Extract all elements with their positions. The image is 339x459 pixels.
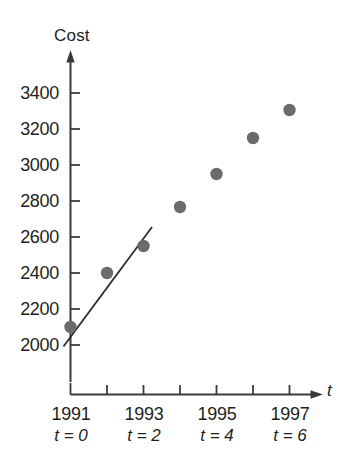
x-tick-t-value: t = 0: [40, 425, 102, 447]
y-tick-text: 3400: [0, 83, 59, 104]
x-tick-year: 1991: [40, 404, 102, 425]
data-point: [283, 104, 295, 116]
y-tick-label-2200: 2200: [0, 299, 59, 319]
x-tick-group-1993: 1993 t = 2: [113, 404, 175, 447]
x-tick-t-value: t = 6: [259, 425, 321, 447]
y-tick-text: 2400: [0, 263, 59, 284]
data-point: [174, 201, 186, 213]
y-tick-text: 2600: [0, 227, 59, 248]
x-axis: [71, 390, 324, 399]
data-point: [64, 321, 76, 333]
x-axis-ticks: [71, 383, 290, 395]
y-tick-text: 3000: [0, 155, 59, 176]
x-tick-year: 1995: [186, 404, 248, 425]
data-point: [101, 267, 113, 279]
data-point: [137, 240, 149, 252]
x-tick-year: 1997: [259, 404, 321, 425]
y-axis-title: Cost: [54, 26, 90, 46]
x-tick-t-value: t = 4: [186, 425, 248, 447]
y-tick-text: 3200: [0, 119, 59, 140]
y-tick-label-3200: 3200: [0, 119, 59, 139]
x-tick-t-value: t = 2: [113, 425, 175, 447]
data-point: [210, 168, 222, 180]
cost-scatter-chart: Cost t 3400 3200 3000 2800 2600 2400 220…: [0, 0, 339, 459]
x-tick-group-1997: 1997 t = 6: [259, 404, 321, 447]
x-tick-group-1991: 1991 t = 0: [40, 404, 102, 447]
y-tick-label-3400: 3400: [0, 83, 59, 103]
y-tick-label-2800: 2800: [0, 191, 59, 211]
y-tick-text: 2200: [0, 299, 59, 320]
y-tick-label-3000: 3000: [0, 155, 59, 175]
y-tick-label-2400: 2400: [0, 263, 59, 283]
x-tick-year: 1993: [113, 404, 175, 425]
y-tick-label-2000: 2000: [0, 335, 59, 355]
x-tick-group-1995: 1995 t = 4: [186, 404, 248, 447]
y-tick-text: 2800: [0, 191, 59, 212]
data-point: [247, 132, 259, 144]
y-tick-label-2600: 2600: [0, 227, 59, 247]
x-axis-title: t: [327, 381, 332, 401]
y-axis-ticks: [71, 93, 81, 345]
y-tick-text: 2000: [0, 335, 59, 356]
